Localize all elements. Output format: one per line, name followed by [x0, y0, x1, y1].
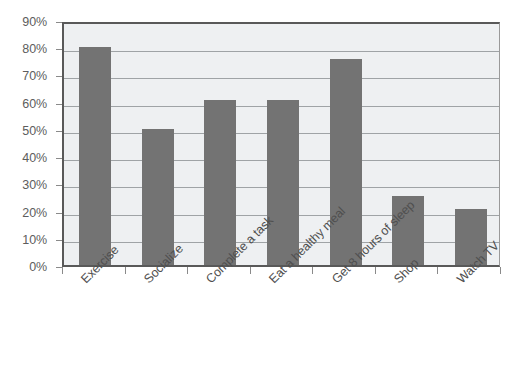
x-axis-tick-mark — [437, 267, 438, 274]
x-axis-tick-mark — [375, 267, 376, 274]
x-axis-category-label: Complete a task — [204, 214, 276, 286]
x-axis-tick-mark — [187, 267, 188, 274]
x-axis-category-label: Shop — [392, 257, 422, 287]
x-axis-tick-mark — [500, 267, 501, 274]
x-axis-category-label: Socialize — [142, 242, 186, 286]
x-axis-tick-mark — [312, 267, 313, 274]
x-axis-category-label: Exercise — [79, 244, 122, 287]
x-axis: ExerciseSocializeComplete a taskEat a he… — [0, 0, 529, 372]
x-axis-tick-mark — [62, 267, 63, 274]
bar-chart: 0%10%20%30%40%50%60%70%80%90% ExerciseSo… — [0, 0, 529, 372]
x-axis-tick-mark — [250, 267, 251, 274]
x-axis-category-label: Watch TV — [455, 239, 502, 286]
x-axis-tick-mark — [125, 267, 126, 274]
